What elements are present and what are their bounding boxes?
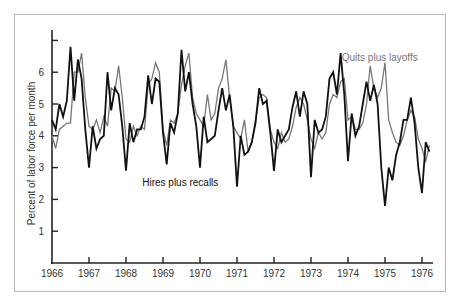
series-lines <box>52 47 429 206</box>
hires-plus-recalls-label: Hires plus recalls <box>142 177 218 188</box>
x-tick-label: 1972 <box>263 268 286 279</box>
x-tick-label: 1970 <box>189 268 212 279</box>
axes: 1234561966196719681969197019711972197319… <box>38 30 433 279</box>
x-tick-label: 1968 <box>115 268 138 279</box>
y-tick-label: 3 <box>38 162 44 173</box>
y-tick-label: 6 <box>38 67 44 78</box>
y-tick-label: 2 <box>38 194 44 205</box>
y-tick-label: 1 <box>38 226 44 237</box>
line-chart: 1234561966196719681969197019711972197319… <box>0 0 461 304</box>
x-tick-label: 1967 <box>78 268 101 279</box>
x-tick-label: 1973 <box>300 268 323 279</box>
hires-plus-recalls-line <box>52 47 429 206</box>
x-tick-label: 1974 <box>337 268 360 279</box>
y-tick-label: 5 <box>38 99 44 110</box>
x-tick-label: 1976 <box>411 268 434 279</box>
quits-plus-layoffs-label: Quits plus layoffs <box>342 52 418 63</box>
x-tick-label: 1966 <box>41 268 64 279</box>
x-tick-label: 1971 <box>226 268 249 279</box>
y-tick-label: 4 <box>38 130 44 141</box>
x-tick-label: 1969 <box>152 268 175 279</box>
x-tick-label: 1975 <box>374 268 397 279</box>
